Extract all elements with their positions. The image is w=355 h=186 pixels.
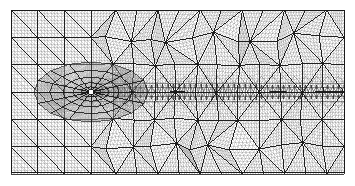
mesh-figure: Adaptive triangular finite element mesh … (0, 0, 355, 186)
mesh-canvas (0, 0, 355, 186)
singularity-marker (89, 90, 93, 94)
